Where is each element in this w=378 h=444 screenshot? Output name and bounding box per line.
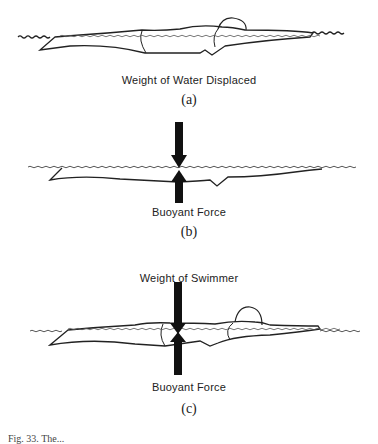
- panel-a-label: Weight of Water Displaced: [0, 74, 378, 86]
- figure-caption: Fig. 33. The...: [8, 433, 378, 444]
- downward-arrow-icon: [171, 122, 187, 168]
- panel-c-label: Buoyant Force: [0, 381, 378, 393]
- panel-c: Weight of Swimmer Buoyant Force (c): [0, 270, 378, 430]
- upward-arrow-icon: [170, 332, 186, 375]
- panel-a-sublabel: (a): [0, 92, 378, 108]
- panel-b: Buoyant Force (b): [0, 122, 378, 262]
- downward-arrow-icon: [170, 282, 186, 334]
- panel-a: Weight of Water Displaced (a): [0, 0, 378, 115]
- upward-arrow-icon: [171, 170, 187, 203]
- panel-b-sublabel: (b): [0, 224, 378, 240]
- arrows-b: [0, 122, 378, 262]
- panel-b-label: Buoyant Force: [0, 206, 378, 218]
- panel-c-sublabel: (c): [0, 401, 378, 417]
